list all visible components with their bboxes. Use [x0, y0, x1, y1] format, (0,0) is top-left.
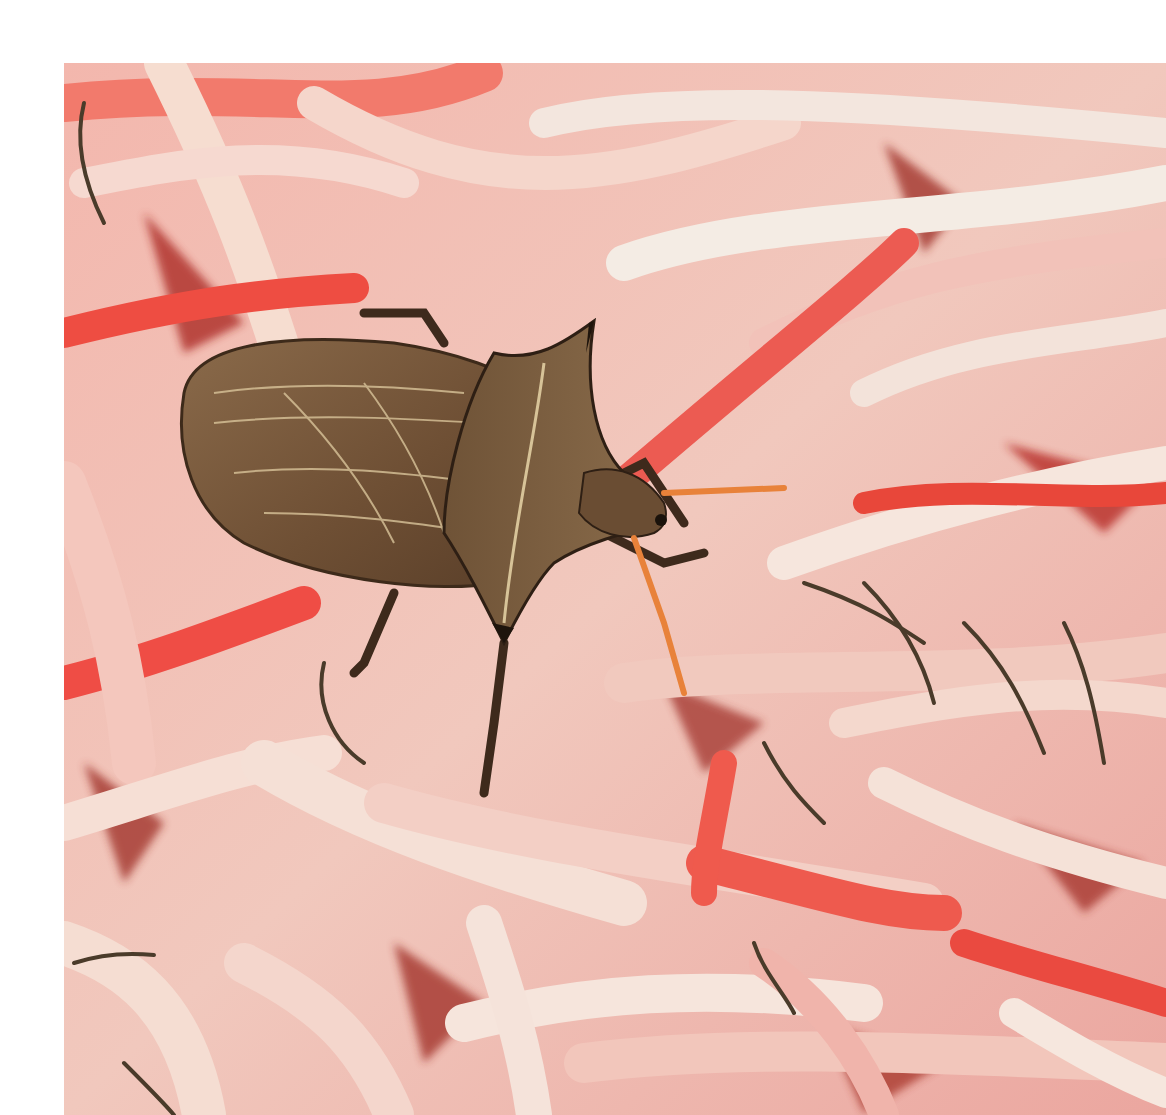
- photo: Close-up photograph of a brown shield bu…: [64, 63, 1166, 1115]
- shield-bug-on-petals-image: [64, 63, 1166, 1115]
